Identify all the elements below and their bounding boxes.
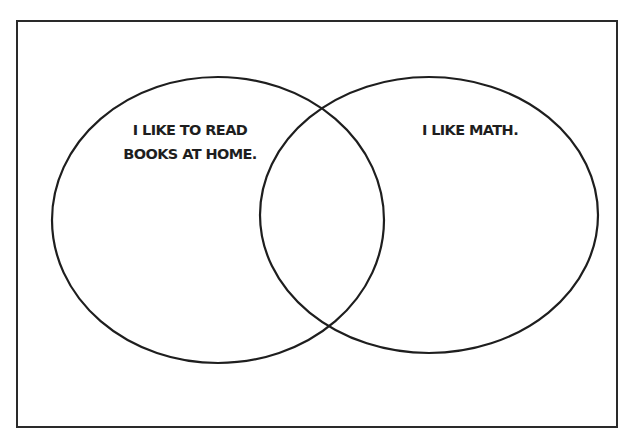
left-set-label-line: I LIKE TO READ [110,118,270,142]
right-set-label: I LIKE MATH. [400,118,540,142]
left-set-label-line: BOOKS AT HOME. [110,142,270,166]
venn-diagram [0,0,633,440]
right-set-label-line: I LIKE MATH. [400,118,540,142]
left-set-label: I LIKE TO READ BOOKS AT HOME. [110,118,270,166]
